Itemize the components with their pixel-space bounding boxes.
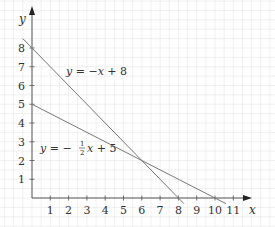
y-tick-label: 4 — [18, 117, 25, 130]
x-axis-arrow-icon — [243, 195, 252, 201]
x-tick-label: 1 — [47, 204, 54, 217]
y-axis-label: y — [18, 12, 26, 26]
equation-label-1: y = −x + 8 — [65, 65, 127, 78]
x-tick-label: 3 — [83, 204, 90, 217]
x-tick-label: 9 — [193, 204, 200, 217]
axes — [29, 6, 252, 201]
x-tick-label: 10 — [208, 204, 222, 217]
y-tick-label: 5 — [18, 98, 25, 111]
lines — [23, 39, 226, 204]
svg-text:x + 5: x + 5 — [87, 142, 116, 155]
y-tick-label: 7 — [18, 61, 25, 74]
x-tick-label: 11 — [226, 204, 240, 217]
fraction-denominator: 2 — [80, 149, 84, 157]
svg-text:y = −: y = − — [39, 142, 72, 155]
x-tick-label: 5 — [120, 204, 127, 217]
x-tick-label: 2 — [65, 204, 72, 217]
x-tick-label: 7 — [157, 204, 164, 217]
y-tick-label: 6 — [18, 80, 25, 93]
y-tick-label: 3 — [18, 136, 25, 149]
y-tick-label: 1 — [18, 173, 25, 186]
x-tick-label: 8 — [175, 204, 182, 217]
grid — [0, 0, 275, 227]
x-axis-label: x — [249, 203, 256, 217]
y-tick-label: 8 — [18, 42, 25, 55]
line-1 — [23, 39, 184, 204]
y-tick-label: 2 — [18, 155, 25, 168]
x-tick-label: 4 — [102, 204, 109, 217]
coordinate-graph: 123456789101112345678 x y y = −x + 8 y =… — [0, 0, 275, 227]
fraction-numerator: 1 — [80, 140, 84, 148]
x-tick-label: 6 — [138, 204, 145, 217]
